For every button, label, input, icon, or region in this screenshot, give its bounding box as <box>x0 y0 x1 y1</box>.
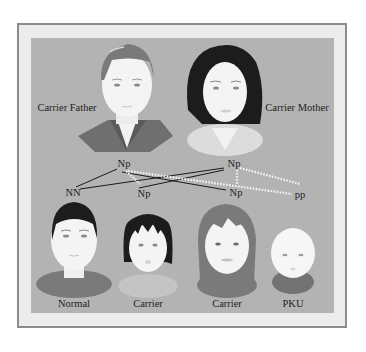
child2-genotype: Np <box>138 189 151 200</box>
child1-genotype: NN <box>65 188 80 199</box>
child3-label: Carrier <box>212 299 242 310</box>
solid-inheritance-lines <box>76 168 226 190</box>
child-carrier-longhair-portrait <box>197 204 257 298</box>
child-pku-portrait <box>271 228 315 294</box>
child2-label: Carrier <box>133 299 163 310</box>
child4-label: PKU <box>282 299 303 310</box>
child4-genotype: pp <box>295 190 306 201</box>
father-portrait <box>78 44 173 152</box>
child-carrier-girl-portrait <box>118 214 178 298</box>
mother-label: Carrier Mother <box>265 103 328 114</box>
father-label: Carrier Father <box>37 103 96 114</box>
father-genotype: Np <box>118 159 131 170</box>
child3-genotype: Np <box>230 188 243 199</box>
child-normal-portrait <box>36 202 112 298</box>
pedigree-illustration <box>0 0 366 352</box>
mother-portrait <box>187 45 263 156</box>
child1-label: Normal <box>58 299 90 310</box>
mother-genotype: Np <box>228 159 241 170</box>
